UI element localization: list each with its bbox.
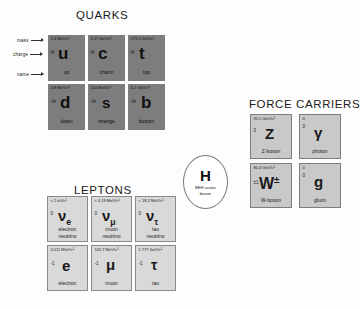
particle-cell-up[interactable]: 2.4 MeV/c² ⅔ u up [48, 35, 85, 81]
particle-name: bottom [128, 118, 165, 124]
particle-cell-bottom[interactable]: 4.2 GeV/c² -⅓ b bottom [128, 84, 165, 130]
particle-symbol: c [98, 45, 107, 62]
particle-cell-down[interactable]: 4.8 MeV/c² -⅓ d down [48, 84, 85, 130]
particle-description: BEH scalar boson [195, 185, 216, 196]
particle-symbol: νμ [102, 208, 116, 227]
particle-charge: -⅓ [131, 100, 136, 105]
particle-symbol: g [314, 174, 323, 189]
particle-symbol: Z [265, 126, 274, 141]
particle-name: up [48, 69, 85, 75]
particle-symbol: νe [58, 208, 71, 227]
particle-mass: 91.2 GeV/c² [254, 117, 275, 121]
particle-name-line1: muon [92, 226, 131, 232]
particle-cell-photon[interactable]: 0 0 γ photon [299, 114, 341, 159]
particle-name-line2: neutrino [92, 233, 131, 239]
particle-mass: 0 [303, 117, 305, 121]
annotation-mass: mass [17, 38, 44, 43]
arrow-right-icon [31, 38, 44, 43]
particle-symbol: b [141, 94, 151, 111]
particle-charge: -1 [139, 262, 143, 267]
particle-name: photon [300, 148, 340, 154]
particle-mass: 1.777 GeV/c² [139, 248, 163, 252]
particle-name-line1: tau [136, 226, 175, 232]
particle-name-line2: neutrino [48, 233, 87, 239]
particle-cell-z-boson[interactable]: 91.2 GeV/c² 0 Z Z-boson [250, 114, 292, 159]
particle-mass: 4.8 MeV/c² [51, 86, 70, 90]
particle-cell-electron-neutrino[interactable]: < 2 eV/c² 0 νe electron neutrino [47, 196, 88, 242]
particle-cell-tau[interactable]: 1.777 GeV/c² -1 τ tau [135, 245, 176, 291]
particle-cell-electron[interactable]: 0.511 MeV/c² -1 e electron [47, 245, 88, 291]
particle-mass: 2.4 MeV/c² [51, 37, 70, 41]
particle-cell-tau-neutrino[interactable]: < 18.2 MeV/c² 0 ντ tau neutrino [135, 196, 176, 242]
particle-name: strange [88, 118, 125, 124]
particle-cell-top[interactable]: 171.2 GeV/c² ⅔ t top [128, 35, 165, 81]
leptons-heading: LEPTONS [74, 184, 132, 196]
particle-name-line1: electron [48, 226, 87, 232]
particle-name: top [128, 69, 165, 75]
particle-charge: ⅔ [51, 51, 55, 56]
particle-name: muon [92, 280, 131, 286]
particle-mass: 80.4 GeV/c² [254, 166, 275, 170]
particle-cell-strange[interactable]: 104 MeV/c² -⅓ s strange [88, 84, 125, 130]
particle-name: gluon [300, 197, 340, 203]
particle-cell-gluon[interactable]: 0 0 g gluon [299, 163, 341, 208]
particle-name: tau [136, 280, 175, 286]
particle-mass: 4.2 GeV/c² [131, 86, 150, 90]
annotation-charge-label: charge [13, 52, 28, 57]
particle-charge: 0 [95, 212, 98, 217]
particle-mass: 104 MeV/c² [91, 86, 111, 90]
annotation-name-label: name [17, 72, 29, 77]
particle-symbol: W± [259, 175, 280, 192]
particle-symbol: τ [151, 258, 157, 272]
annotation-name: name [17, 72, 44, 77]
particle-symbol: d [60, 94, 70, 111]
particle-mass: < 18.2 MeV/c² [139, 199, 164, 203]
particle-charge: ±1 [254, 181, 259, 186]
arrow-right-icon [30, 52, 43, 57]
particle-charge: ⅔ [131, 51, 135, 56]
particle-charge: 0 [303, 125, 306, 130]
particle-name: charm [88, 69, 125, 75]
particle-mass: < 0.19 MeV/c² [95, 199, 120, 203]
particle-name: W-boson [251, 197, 291, 203]
quarks-heading: QUARKS [76, 9, 128, 21]
particle-name: down [48, 118, 85, 124]
particle-cell-higgs-boson[interactable]: H BEH scalar boson [183, 155, 228, 209]
particle-mass: 171.2 GeV/c² [131, 37, 155, 41]
particle-symbol: s [102, 95, 110, 110]
particle-mass: 1.27 GeV/c² [91, 37, 112, 41]
particle-name-line2: neutrino [136, 233, 175, 239]
particle-symbol: t [139, 45, 145, 62]
particle-charge: 0 [139, 212, 142, 217]
particle-symbol: γ [314, 125, 322, 140]
force-carriers-heading: FORCE CARRIERS [249, 98, 360, 110]
particle-charge: 0 [51, 212, 54, 217]
particle-symbol: e [62, 258, 70, 273]
annotation-mass-label: mass [17, 38, 29, 43]
particle-symbol: μ [106, 257, 115, 272]
particle-charge: -⅓ [51, 100, 56, 105]
annotation-charge: charge [13, 52, 43, 57]
arrow-right-icon [31, 72, 44, 77]
particle-symbol: H [200, 168, 211, 183]
particle-name: Z-boson [251, 148, 291, 154]
particle-cell-w-boson[interactable]: 80.4 GeV/c² ±1 W± W-boson [250, 163, 292, 208]
particle-charge: -⅓ [91, 100, 96, 105]
particle-charge: 0 [303, 174, 306, 179]
particle-cell-muon-neutrino[interactable]: < 0.19 MeV/c² 0 νμ muon neutrino [91, 196, 132, 242]
particle-symbol: u [58, 45, 68, 62]
particle-symbol: ντ [146, 208, 158, 227]
particle-mass: 0 [303, 166, 305, 170]
particle-charge: ⅔ [91, 51, 95, 56]
particle-cell-muon[interactable]: 105.7 MeV/c² -1 μ muon [91, 245, 132, 291]
particle-charge: -1 [51, 262, 55, 267]
particle-charge: -1 [95, 262, 99, 267]
particle-mass: 0.511 MeV/c² [51, 248, 74, 252]
higgs-desc-line1: BEH scalar [195, 185, 216, 190]
particle-charge: 0 [254, 129, 257, 134]
particle-cell-charm[interactable]: 1.27 GeV/c² ⅔ c charm [88, 35, 125, 81]
particle-name: electron [48, 280, 87, 286]
particle-mass: < 2 eV/c² [51, 199, 67, 203]
higgs-desc-line2: boson [200, 191, 211, 196]
